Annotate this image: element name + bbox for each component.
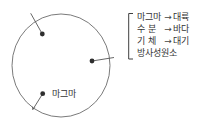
right-arrow-icon: → — [163, 35, 173, 47]
result-label: 대기 — [173, 35, 189, 47]
earth-circle — [12, 14, 110, 117]
right-arrow-icon: → — [163, 11, 173, 23]
right-arrow-icon: → — [163, 23, 173, 35]
leader-line-bottom-left — [33, 94, 43, 110]
bracket-icon — [129, 14, 133, 60]
bracket-item-moisture: 수 분 → 바다 — [137, 23, 199, 35]
term-label: 기 체 — [137, 35, 163, 47]
result-label: 대륙 — [173, 11, 189, 23]
term-label: 방사성원소 — [137, 47, 177, 59]
term-label: 마그마 — [137, 11, 163, 23]
bracket-item-gas: 기 체 → 대기 — [137, 35, 199, 47]
bracket-list: 마그마 → 대륙 수 분 → 바다 기 체 → 대기 방사성원소 — [137, 11, 199, 59]
magma-dot-top-left — [40, 32, 45, 37]
bracket-item-radioactive-element: 방사성원소 — [137, 47, 199, 59]
result-label: 바다 — [173, 23, 189, 35]
magma-dot-bottom — [40, 91, 45, 96]
magma-dot-right — [90, 59, 95, 64]
bracket-item-magma: 마그마 → 대륙 — [137, 11, 199, 23]
magma-label: 마그마 — [52, 88, 76, 100]
leader-line-right — [92, 58, 114, 62]
diagram-stage: 마그마 → 대륙 수 분 → 바다 기 체 → 대기 방사성원소 마그마 — [0, 0, 200, 135]
term-label: 수 분 — [137, 23, 163, 35]
